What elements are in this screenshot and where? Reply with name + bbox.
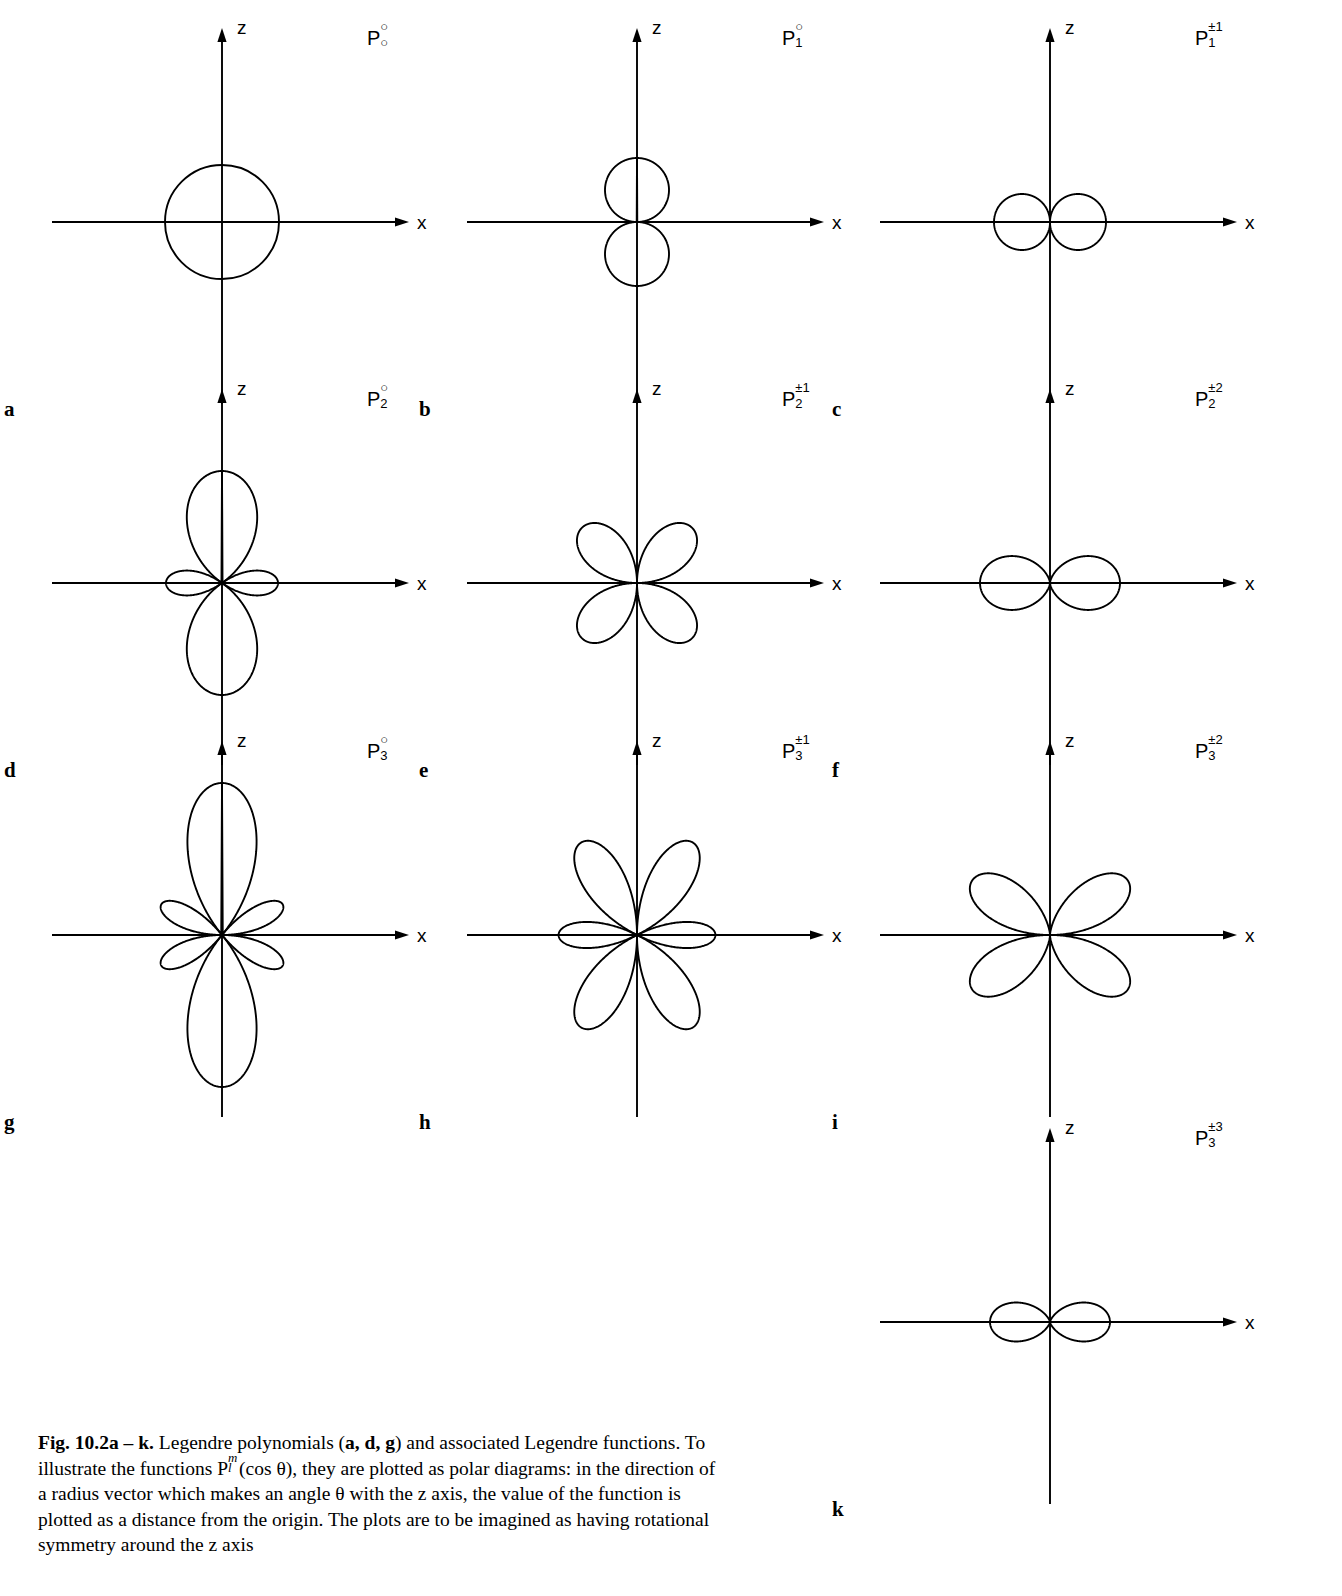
function-label-e: P±12 [782,386,807,409]
z-axis-label: z [237,378,247,399]
caption-figure-number: Fig. 10.2a – k. [38,1432,154,1453]
function-label-superscript-d: ○ [380,381,388,394]
function-label-subscript-h: 3 [795,749,802,762]
function-label-base-g: P [367,740,380,762]
function-label-f: P±22 [1195,386,1220,409]
function-label-subscript-a: ○ [380,36,388,49]
lobe-h-1 [637,841,700,935]
polar-plot-panel-e: zx [447,381,832,785]
panel-letter-i: i [832,1112,838,1133]
function-label-superscript-e: ±1 [795,381,809,394]
lobe-i-2 [1050,935,1130,997]
function-label-g: P○3 [367,738,392,761]
z-axis-label: z [652,17,662,38]
caption-text-1: Legendre polynomials ( [154,1432,345,1453]
panel-letter-e: e [419,760,428,781]
x-axis-arrowhead [395,578,409,587]
function-label-b: P○1 [782,25,807,48]
caption-sub-l: l [228,1460,232,1477]
z-axis-label: z [1065,378,1075,399]
x-axis-label: x [417,925,427,946]
polar-plot-panel-a: zx [32,20,417,424]
lobe-b-1 [637,158,669,222]
lobe-i-4 [970,873,1050,935]
polar-plot-panel-d: zx [32,381,417,785]
function-label-subscript-g: 3 [380,749,387,762]
z-axis-arrowhead [217,389,226,403]
z-axis-arrowhead [217,741,226,755]
function-label-a: P○○ [367,25,392,48]
z-axis-label: z [652,378,662,399]
panel-letter-f: f [832,760,839,781]
z-axis-label: z [1065,730,1075,751]
function-label-superscript-k: ±3 [1208,1120,1222,1133]
function-label-superscript-i: ±2 [1208,733,1222,746]
z-axis-label: z [237,17,247,38]
panel-letter-c: c [832,399,841,420]
function-label-superscript-h: ±1 [795,733,809,746]
polar-plot-panel-k: zx [860,1120,1245,1524]
z-axis-arrowhead [1045,741,1054,755]
panel-letter-a: a [4,399,15,420]
lobe-e-4 [577,523,637,583]
function-label-superscript-g: ○ [380,733,388,746]
caption-plm-indices: ml [228,1455,239,1475]
panel-letter-b: b [419,399,431,420]
lobe-g-2 [222,901,283,935]
lobe-g-5 [161,935,222,969]
function-label-superscript-c: ±1 [1208,20,1222,33]
z-axis-arrowhead [632,389,641,403]
lobe-b-3 [605,158,637,222]
polar-plot-panel-h: zx [447,733,832,1137]
function-label-base-c: P [1195,27,1208,49]
function-label-base-f: P [1195,388,1208,410]
function-label-base-i: P [1195,740,1208,762]
function-label-indices-h: ±13 [795,738,807,758]
function-label-c: P±11 [1195,25,1220,48]
function-label-superscript-a: ○ [380,20,388,33]
function-label-base-h: P [782,740,795,762]
x-axis-label: x [1245,1312,1255,1333]
lobe-i-3 [970,935,1050,997]
lobe-h-4 [574,935,637,1029]
lobe-g-1 [222,783,257,934]
x-axis-label: x [1245,573,1255,594]
lobe-e-3 [577,583,637,643]
function-label-subscript-d: 2 [380,397,387,410]
lobe-d-1 [222,471,257,583]
figure-panel-grid: zxP○○azxP○1bzxP±11czxP○2dzxP±12ezxP±22fz… [0,0,1342,1596]
function-label-subscript-c: 1 [1208,36,1215,49]
panel-letter-d: d [4,760,16,781]
x-axis-label: x [1245,925,1255,946]
function-label-base-k: P [1195,1127,1208,1149]
polar-plot-panel-c: zx [860,20,1245,424]
function-label-base-b: P [782,27,795,49]
function-label-subscript-e: 2 [795,397,802,410]
z-axis-arrowhead [1045,1128,1054,1142]
function-label-h: P±13 [782,738,807,761]
z-axis-arrowhead [1045,28,1054,42]
function-label-base-d: P [367,388,380,410]
function-label-indices-g: ○3 [380,738,392,758]
function-label-indices-e: ±12 [795,386,807,406]
x-axis-arrowhead [810,930,824,939]
x-axis-label: x [832,925,842,946]
function-label-indices-i: ±23 [1208,738,1220,758]
x-axis-label: x [1245,212,1255,233]
x-axis-label: x [832,212,842,233]
lobe-h-3 [637,935,700,1029]
lobe-d-5 [187,471,222,583]
function-label-subscript-b: 1 [795,36,802,49]
lobe-h-6 [574,841,637,935]
z-axis-label: z [1065,1117,1075,1138]
function-label-superscript-b: ○ [795,20,803,33]
x-axis-arrowhead [810,217,824,226]
panel-letter-k: k [832,1499,844,1520]
lobe-g-6 [161,901,222,935]
figure-caption: Fig. 10.2a – k. Legendre polynomials (a,… [38,1430,728,1557]
lobe-e-2 [637,583,697,643]
z-axis-arrowhead [1045,389,1054,403]
x-axis-arrowhead [1223,1317,1237,1326]
polar-plot-panel-f: zx [860,381,1245,785]
function-label-indices-f: ±22 [1208,386,1220,406]
